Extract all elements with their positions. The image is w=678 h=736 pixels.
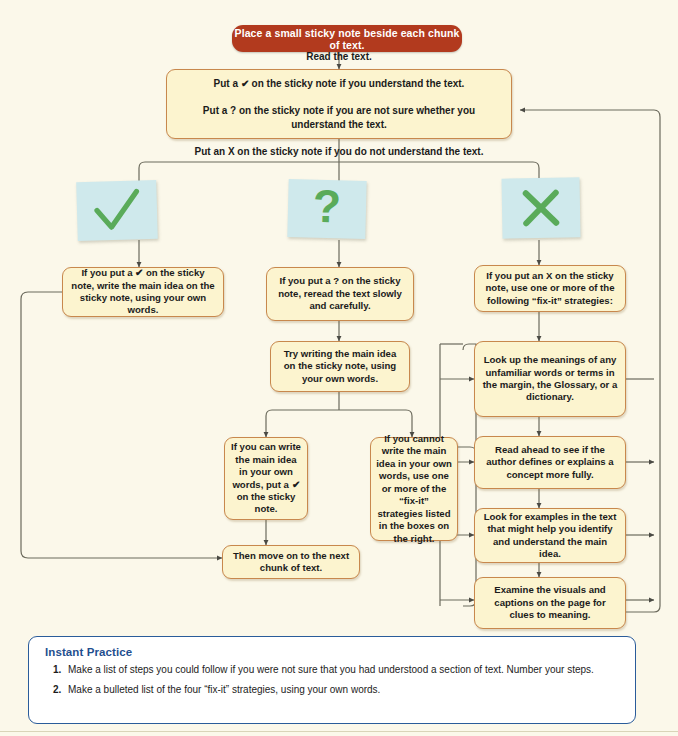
item-2-number: 2.	[53, 683, 68, 697]
move-on-node: Then move on to the next chunk of text.	[222, 545, 360, 579]
start-node: Place a small sticky note beside each ch…	[232, 25, 462, 52]
instant-practice-panel: Instant Practice 1. Make a list of steps…	[28, 636, 636, 724]
strategy-1-node: Look up the meanings of any unfamiliar w…	[474, 341, 626, 417]
instant-practice-item-2: 2. Make a bulleted list of the four “fix…	[45, 683, 619, 697]
cannot-write-node: If you cannot write the main idea in you…	[370, 437, 458, 541]
svg-text:?: ?	[312, 184, 341, 233]
instant-practice-title: Instant Practice	[45, 646, 619, 658]
decision-line-3: Put a ? on the sticky note if you are no…	[175, 104, 503, 131]
x-mark-icon	[518, 186, 565, 231]
strategy-2-node: Read ahead to see if the author defines …	[474, 436, 626, 489]
branch-x-node: If you put an X on the sticky note, use …	[474, 265, 626, 312]
read-text-node: Read the text. Put a ✔ on the sticky not…	[166, 69, 512, 139]
cannot-write-text: If you cannot write the main idea in you…	[376, 433, 452, 545]
page-bottom-rule	[0, 731, 678, 732]
strategy-3-node: Look for examples in the text that might…	[474, 508, 626, 563]
item-1-text: Make a list of steps you could follow if…	[68, 663, 619, 677]
strategy-4-node: Examine the visuals and captions on the …	[474, 577, 626, 629]
can-write-node: If you can write the main idea in your o…	[224, 437, 308, 520]
read-text-node-text: Read the text. Put a ✔ on the sticky not…	[175, 50, 503, 158]
decision-line-2: Put a ✔ on the sticky note if you unders…	[175, 77, 503, 91]
strategy-3-text: Look for examples in the text that might…	[481, 511, 619, 561]
item-1-number: 1.	[53, 663, 68, 677]
branch-check-text: If you put a ✔ on the sticky note, write…	[70, 267, 216, 317]
strategy-1-text: Look up the meanings of any unfamiliar w…	[481, 354, 619, 404]
sticky-note-x	[501, 177, 580, 238]
question-mark-icon: ?	[306, 184, 347, 235]
check-mark-icon	[89, 187, 144, 234]
branch-question-text: If you put a ? on the sticky note, rerea…	[274, 275, 406, 312]
can-write-text: If you can write the main idea in your o…	[230, 441, 302, 516]
strategy-4-text: Examine the visuals and captions on the …	[481, 584, 619, 621]
start-node-text: Place a small sticky note beside each ch…	[232, 27, 462, 51]
move-on-text: Then move on to the next chunk of text.	[229, 550, 353, 575]
flowchart-canvas: Place a small sticky note beside each ch…	[0, 0, 678, 736]
decision-line-4: Put an X on the sticky note if you do no…	[175, 145, 503, 159]
branch-check-node: If you put a ✔ on the sticky note, write…	[62, 267, 224, 317]
sticky-note-question: ?	[287, 179, 366, 239]
item-2-text: Make a bulleted list of the four “fix-it…	[68, 683, 619, 697]
instant-practice-item-1: 1. Make a list of steps you could follow…	[45, 663, 619, 677]
strategy-2-text: Read ahead to see if the author defines …	[481, 444, 619, 481]
branch-x-text: If you put an X on the sticky note, use …	[481, 270, 619, 307]
branch-question-node: If you put a ? on the sticky note, rerea…	[266, 267, 414, 321]
try-writing-node: Try writing the main idea on the sticky …	[270, 341, 410, 392]
decision-line-1: Read the text.	[175, 50, 503, 64]
try-writing-text: Try writing the main idea on the sticky …	[277, 348, 403, 385]
sticky-note-check	[76, 180, 158, 241]
